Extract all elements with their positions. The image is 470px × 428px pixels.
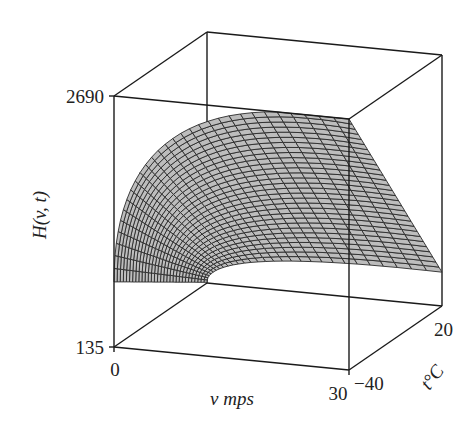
z-tick-min: 135 <box>76 337 105 358</box>
y-tick-max: 20 <box>434 319 453 340</box>
x-tick-min: 0 <box>110 359 120 380</box>
x-axis-title: v mps <box>210 388 254 409</box>
y-tick-min: −40 <box>354 373 384 394</box>
surface-plot: 2690 135 0 30 −40 20 v mps t°C H(v, t) <box>0 0 470 428</box>
x-tick-max: 30 <box>329 383 348 404</box>
z-tick-max: 2690 <box>66 86 104 107</box>
y-axis-title: t°C <box>416 360 448 393</box>
surface-mesh <box>114 112 442 282</box>
z-axis-title: H(v, t) <box>29 191 51 240</box>
